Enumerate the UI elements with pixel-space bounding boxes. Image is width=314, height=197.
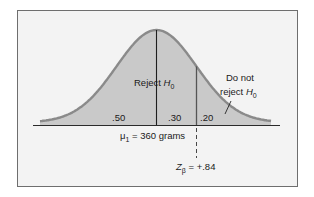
area-label-left: .50 xyxy=(112,112,125,123)
do-not-reject-label-line2: reject H0 xyxy=(220,86,257,99)
z-beta-label: Zβ = +.84 xyxy=(175,161,215,175)
mean-label: μ1 = 360 grams xyxy=(120,130,185,143)
do-not-reject-label-line1: Do not xyxy=(226,72,254,83)
area-label-middle: .30 xyxy=(168,112,181,123)
area-label-right: .20 xyxy=(200,112,213,123)
normal-distribution-chart: Reject H0 Do not reject H0 .50 .30 .20 μ… xyxy=(0,0,314,197)
reject-label: Reject H0 xyxy=(134,77,174,90)
